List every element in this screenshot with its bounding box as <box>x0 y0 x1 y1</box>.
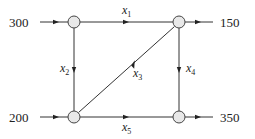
arrowhead-icon <box>72 67 76 73</box>
node-bottom-right <box>173 111 185 123</box>
arrowhead-icon <box>177 67 181 73</box>
edge-x2-label: x2 <box>59 61 69 77</box>
flow-network-diagram: 300 150 200 350 x1 x2 x3 <box>0 0 255 139</box>
arrowhead-icon <box>123 115 129 119</box>
node-top-right <box>173 16 185 28</box>
arrowhead-icon <box>53 20 59 24</box>
outflow-350: 350 <box>185 110 240 125</box>
arrowhead-icon <box>123 20 129 24</box>
edge-x5-label: x5 <box>121 120 131 136</box>
edge-x5: x5 <box>80 115 173 136</box>
outflow-150: 150 <box>185 15 240 30</box>
edge-x4: x4 <box>177 28 196 111</box>
outflow-150-label: 150 <box>220 15 240 30</box>
arrowhead-icon <box>53 115 59 119</box>
arrowhead-icon <box>195 115 201 119</box>
arrowhead-icon <box>195 20 201 24</box>
node-top-left <box>68 16 80 28</box>
edge-x4-label: x4 <box>185 61 195 77</box>
edge-x1-label: x1 <box>121 3 131 19</box>
edge-x1: x1 <box>80 3 173 24</box>
edge-x3-label: x3 <box>132 66 142 82</box>
inflow-200: 200 <box>9 110 68 125</box>
inflow-300: 300 <box>9 15 68 30</box>
inflow-300-label: 300 <box>9 15 29 30</box>
edge-x3: x3 <box>79 27 175 113</box>
inflow-200-label: 200 <box>9 110 29 125</box>
outflow-350-label: 350 <box>220 110 240 125</box>
node-bottom-left <box>68 111 80 123</box>
edge-x2: x2 <box>59 28 76 111</box>
